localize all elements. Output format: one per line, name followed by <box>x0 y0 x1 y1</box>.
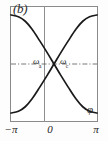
x-tick-label-minus-pi: −π <box>2 124 20 135</box>
figure-panel-b: (b) ωa ωc φ −π 0 π <box>0 0 108 141</box>
x-tick-label-zero: 0 <box>45 124 55 135</box>
annotation-omega-c: ωc <box>60 57 69 68</box>
x-tick-label-pi: π <box>90 124 102 135</box>
omega-c-subscript: c <box>66 63 69 69</box>
omega-a-subscript: a <box>39 63 42 69</box>
x-axis-label-phi: φ <box>87 104 93 115</box>
panel-label: (b) <box>13 2 27 15</box>
curves-svg <box>10 6 98 122</box>
annotation-omega-a: ωa <box>33 57 42 68</box>
